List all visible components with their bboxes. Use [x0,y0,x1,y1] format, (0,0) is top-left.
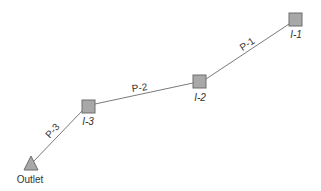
pipe-p-1 [206,24,289,79]
pipe-label-p-3: P-3 [43,121,62,140]
pipe-p-3 [33,111,82,162]
pipe-label-p-1: P-1 [238,35,257,53]
pipe-network-diagram: P-1 P-2 P-3 I-1 I-2 I-3 Outlet [0,0,321,191]
inlet-node-i-1[interactable] [289,13,302,26]
inlet-node-i-2[interactable] [193,75,206,88]
node-label-outlet: Outlet [17,174,44,185]
node-label-i-3: I-3 [82,116,94,127]
outlet-node-triangle-icon[interactable] [24,156,38,170]
pipe-label-p-2: P-2 [131,81,148,94]
node-label-i-1: I-1 [290,29,302,40]
node-label-i-2: I-2 [194,92,206,103]
inlet-node-i-3[interactable] [82,100,95,113]
